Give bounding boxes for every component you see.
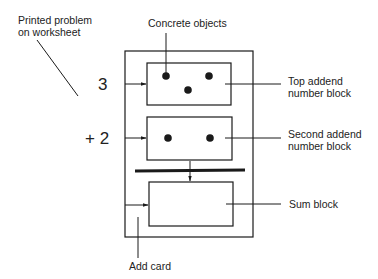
- top-addend-label: Top addend number block: [288, 75, 351, 99]
- add-card-outline: [125, 51, 253, 237]
- concrete-objects-label: Concrete objects: [148, 17, 227, 29]
- second-addend-line1: Second addend: [288, 128, 362, 140]
- top-number: 3: [98, 75, 107, 95]
- dot-icon: [206, 134, 214, 142]
- printed-problem-line2: on worksheet: [18, 26, 92, 38]
- second-addend-label: Second addend number block: [288, 128, 362, 152]
- dot-icon: [164, 134, 172, 142]
- top-addend-block: [147, 63, 231, 105]
- top-addend-line1: Top addend: [288, 75, 351, 87]
- add-card-label: Add card: [129, 260, 171, 272]
- second-number: + 2: [85, 129, 109, 149]
- second-addend-block: [147, 117, 232, 160]
- top-addend-line2: number block: [288, 87, 351, 99]
- printed-problem-label: Printed problem on worksheet: [18, 14, 92, 38]
- dot-icon: [162, 72, 170, 80]
- printed-problem-pointer: [37, 40, 78, 96]
- second-addend-line2: number block: [288, 140, 362, 152]
- sum-block: [149, 182, 233, 226]
- dot-icon: [184, 86, 192, 94]
- sum-block-label: Sum block: [289, 198, 338, 210]
- printed-problem-line1: Printed problem: [18, 14, 92, 26]
- dot-icon: [205, 72, 213, 80]
